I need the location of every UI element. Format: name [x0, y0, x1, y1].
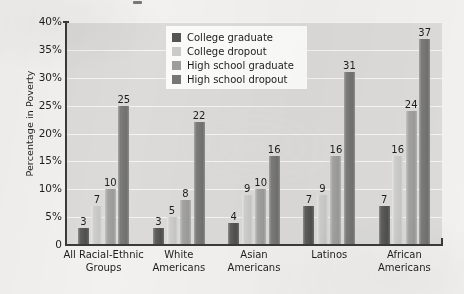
bar: 9 [242, 195, 253, 245]
legend-item: High school graduate [172, 58, 302, 72]
y-tick-label-5%: 5% [18, 211, 62, 222]
bar-value-label: 8 [182, 188, 188, 199]
x-axis-label-line: Americans [206, 262, 301, 275]
scan-artifact [133, 1, 142, 4]
legend-item: College graduate [172, 30, 302, 44]
bar-fill [330, 156, 341, 245]
bar-fill [78, 228, 89, 245]
chart-legend: College graduateCollege dropoutHigh scho… [166, 26, 307, 89]
bar-fill [105, 189, 116, 245]
bar-value-label: 9 [244, 183, 250, 194]
bar-fill [317, 195, 328, 245]
bar-value-label: 7 [381, 194, 387, 205]
bar-fill [406, 111, 417, 245]
bar-fill [242, 195, 253, 245]
bar-fill [153, 228, 164, 245]
bar-fill [167, 217, 178, 245]
bar: 3 [153, 228, 164, 245]
bar-value-label: 22 [193, 110, 206, 121]
legend-label: College graduate [187, 32, 273, 43]
bar: 7 [303, 206, 314, 245]
bar-fill [118, 106, 129, 245]
bar-value-label: 9 [319, 183, 325, 194]
bar: 24 [406, 111, 417, 245]
bar-value-label: 24 [405, 99, 418, 110]
bar-value-label: 7 [306, 194, 312, 205]
bar: 16 [330, 156, 341, 245]
x-axis-category-labels: All Racial-EthnicGroupsWhiteAmericansAsi… [66, 249, 442, 293]
legend-swatch-icon [172, 47, 181, 56]
bar: 22 [194, 122, 205, 245]
bar-value-label: 4 [231, 211, 237, 222]
bar-fill [419, 39, 430, 245]
poverty-by-education-bar-chart: 05%10%15%20%25%30%35%40% Percentage in P… [0, 0, 464, 294]
legend-label: High school dropout [187, 74, 287, 85]
bar-value-label: 3 [155, 216, 161, 227]
legend-label: College dropout [187, 46, 267, 57]
bar: 9 [317, 195, 328, 245]
bar-value-label: 16 [330, 144, 343, 155]
bar: 10 [105, 189, 116, 245]
bar-fill [303, 206, 314, 245]
bar-value-label: 7 [94, 194, 100, 205]
y-axis-tick-labels: 05%10%15%20%25%30%35%40% [8, 0, 62, 294]
y-axis-title: Percentage in Poverty [24, 49, 35, 199]
bar-fill [194, 122, 205, 245]
bar-fill [91, 206, 102, 245]
bar: 3 [78, 228, 89, 245]
bar-fill [228, 223, 239, 245]
bar-fill [392, 156, 403, 245]
y-tick-label-40%: 40% [18, 16, 62, 27]
bar-fill [269, 156, 280, 245]
x-axis-right-tick [441, 238, 443, 246]
legend-swatch-icon [172, 75, 181, 84]
bar-value-label: 5 [169, 205, 175, 216]
bar-fill [379, 206, 390, 245]
legend-label: High school graduate [187, 60, 294, 71]
legend-swatch-icon [172, 33, 181, 42]
bar-value-label: 10 [104, 177, 117, 188]
x-axis-line [65, 244, 443, 246]
bar-group: 371025 [66, 22, 141, 245]
bar-value-label: 3 [80, 216, 86, 227]
bar-value-label: 16 [391, 144, 404, 155]
y-axis-line [65, 21, 67, 246]
bar: 37 [419, 39, 430, 245]
bar: 7 [91, 206, 102, 245]
bar: 16 [392, 156, 403, 245]
y-axis-top-tick [63, 21, 69, 23]
bar-fill [344, 72, 355, 245]
bar-value-label: 10 [254, 177, 267, 188]
bar-value-label: 25 [117, 94, 130, 105]
bar: 4 [228, 223, 239, 245]
bar-group: 7162437 [367, 22, 442, 245]
legend-item: High school dropout [172, 72, 302, 86]
legend-item: College dropout [172, 44, 302, 58]
bar-value-label: 16 [268, 144, 281, 155]
bar: 5 [167, 217, 178, 245]
legend-swatch-icon [172, 61, 181, 70]
bar: 8 [180, 200, 191, 245]
bar: 16 [269, 156, 280, 245]
bar: 7 [379, 206, 390, 245]
x-axis-label-line: African [357, 249, 452, 262]
bar: 10 [255, 189, 266, 245]
bar-fill [180, 200, 191, 245]
bar: 31 [344, 72, 355, 245]
bar: 25 [118, 106, 129, 245]
x-axis-label: AfricanAmericans [357, 249, 452, 274]
bar-fill [255, 189, 266, 245]
bar-value-label: 31 [343, 60, 356, 71]
x-axis-label-line: Americans [357, 262, 452, 275]
bar-value-label: 37 [418, 27, 431, 38]
